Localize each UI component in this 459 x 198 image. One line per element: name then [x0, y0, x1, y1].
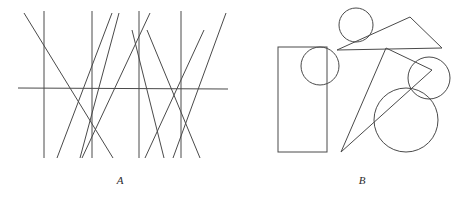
diagonal-line-2 — [57, 13, 112, 158]
panel-a-vertical-lines — [44, 11, 181, 158]
rectangle-overlap-circle — [301, 47, 339, 85]
sliver-triangle — [341, 48, 432, 152]
right-medium-circle — [408, 57, 450, 99]
panel-a: A — [18, 11, 228, 186]
panel-b: B — [278, 8, 450, 186]
large-bottom-circle — [374, 88, 438, 152]
figure-root: A B — [0, 0, 459, 198]
diagonal-line-8 — [145, 30, 204, 158]
horizontal-baseline — [18, 88, 228, 89]
panel-a-label: A — [116, 174, 124, 186]
top-circle — [339, 8, 373, 42]
panel-a-diagonal-lines — [24, 13, 226, 158]
diagonal-line-6 — [147, 30, 200, 158]
panel-a-horizontal-line — [18, 88, 228, 89]
figure-canvas: A B — [0, 0, 459, 198]
diagonal-line-5 — [132, 30, 164, 158]
tall-rectangle — [278, 47, 327, 152]
panel-b-label: B — [359, 174, 366, 186]
wide-triangle — [337, 17, 442, 50]
